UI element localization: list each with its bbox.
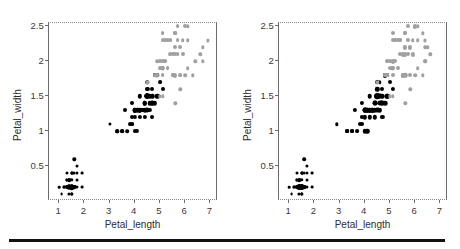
plot-area bbox=[279, 23, 446, 199]
scatter-point bbox=[138, 115, 142, 119]
x-tick-label: 1 bbox=[285, 205, 290, 216]
scatter-point bbox=[128, 122, 132, 126]
scatter-point bbox=[158, 80, 162, 84]
y-tick-mark bbox=[45, 130, 48, 131]
y-tick-mark bbox=[275, 95, 278, 96]
scatter-point bbox=[166, 66, 170, 70]
scatter-point bbox=[163, 39, 167, 43]
scatter-point bbox=[70, 193, 73, 196]
scatter-point bbox=[426, 46, 429, 49]
scatter-point bbox=[135, 129, 139, 133]
scatter-point bbox=[173, 102, 176, 105]
scatter-point bbox=[125, 129, 129, 133]
y-tick-mark bbox=[275, 165, 278, 166]
scatter-point bbox=[80, 186, 83, 189]
x-tick-label: 7 bbox=[207, 205, 212, 216]
scatter-point bbox=[416, 67, 420, 71]
x-tick-label: 6 bbox=[412, 205, 417, 216]
x-axis-label: Petal_length bbox=[105, 219, 161, 230]
scatter-point bbox=[310, 172, 313, 175]
scatter-point bbox=[353, 108, 357, 112]
scatter-point bbox=[183, 74, 187, 78]
scatter-point bbox=[186, 39, 190, 43]
scatter-point bbox=[378, 108, 382, 112]
scatter-point bbox=[156, 60, 160, 64]
scatter-point bbox=[173, 52, 177, 56]
x-tick-label: 5 bbox=[386, 205, 391, 216]
scatter-point bbox=[150, 94, 154, 98]
scatter-point bbox=[398, 52, 402, 56]
scatter-point bbox=[411, 39, 415, 43]
x-tick-mark bbox=[439, 200, 440, 203]
x-tick-label: 2 bbox=[81, 205, 86, 216]
scatter-point bbox=[161, 73, 165, 77]
scatter-point bbox=[173, 32, 177, 36]
x-tick-mark bbox=[364, 200, 365, 203]
scatter-point bbox=[290, 193, 293, 196]
x-tick-mark bbox=[288, 200, 289, 203]
scatter-point bbox=[355, 129, 359, 133]
scatter-point bbox=[305, 165, 308, 168]
scatter-point bbox=[60, 193, 63, 196]
y-axis-label: Petal_width bbox=[242, 89, 253, 141]
scatter-point bbox=[391, 95, 394, 98]
scatter-point bbox=[178, 73, 182, 77]
scatter-point bbox=[406, 24, 410, 28]
scatter-point bbox=[403, 102, 406, 105]
scatter-point bbox=[191, 74, 194, 77]
scatter-point bbox=[300, 193, 303, 196]
scatter-point bbox=[391, 73, 395, 77]
scatter-point bbox=[365, 129, 369, 133]
scatter-point bbox=[398, 38, 402, 42]
y-tick-mark bbox=[45, 60, 48, 61]
scatter-point bbox=[58, 186, 61, 189]
scatter-point bbox=[360, 101, 364, 105]
x-tick-label: 6 bbox=[182, 205, 187, 216]
x-tick-label: 1 bbox=[55, 205, 60, 216]
scatter-point bbox=[148, 101, 153, 106]
x-tick-mark bbox=[58, 200, 59, 203]
scatter-point bbox=[75, 165, 78, 168]
scatter-point bbox=[380, 115, 384, 119]
scatter-point bbox=[421, 32, 424, 35]
y-tick-label: 2 bbox=[244, 55, 274, 66]
y-tick-mark bbox=[275, 130, 278, 131]
scatter-panel-left: 0.511.522.5 1234567 Petal_length Petal_w… bbox=[0, 0, 230, 228]
scatter-point bbox=[424, 39, 427, 42]
x-tick-mark bbox=[339, 200, 340, 203]
scatter-point bbox=[406, 38, 410, 42]
y-tick-label: 0.5 bbox=[14, 160, 44, 171]
scatter-point bbox=[194, 60, 197, 63]
scatter-point bbox=[199, 53, 202, 56]
scatter-point bbox=[383, 73, 387, 77]
scatter-point bbox=[335, 123, 338, 126]
x-tick-label: 4 bbox=[131, 205, 136, 216]
scatter-point bbox=[153, 74, 157, 78]
scatter-point bbox=[201, 60, 204, 63]
scatter-point bbox=[150, 115, 154, 119]
x-tick-mark bbox=[134, 200, 135, 203]
scatter-point bbox=[158, 66, 162, 70]
scatter-point bbox=[391, 31, 395, 35]
scatter-point bbox=[305, 179, 308, 182]
y-tick-label: 0.5 bbox=[244, 160, 274, 171]
scatter-point bbox=[383, 101, 388, 106]
plot-frame bbox=[278, 22, 447, 200]
scatter-point bbox=[153, 101, 157, 105]
scatter-point bbox=[396, 66, 400, 70]
scatter-point bbox=[148, 108, 152, 112]
scatter-point bbox=[176, 39, 180, 43]
scatter-point bbox=[178, 45, 182, 49]
scatter-point bbox=[380, 87, 384, 91]
scatter-point bbox=[408, 88, 411, 91]
scatter-point bbox=[363, 115, 367, 119]
horizontal-rule bbox=[9, 239, 445, 242]
x-tick-mark bbox=[414, 200, 415, 203]
y-tick-mark bbox=[45, 165, 48, 166]
scatter-point bbox=[161, 95, 164, 98]
scatter-point bbox=[386, 59, 390, 63]
scatter-point bbox=[310, 186, 313, 189]
scatter-point bbox=[358, 122, 362, 126]
y-tick-mark bbox=[275, 60, 278, 61]
y-tick-mark bbox=[275, 25, 278, 26]
